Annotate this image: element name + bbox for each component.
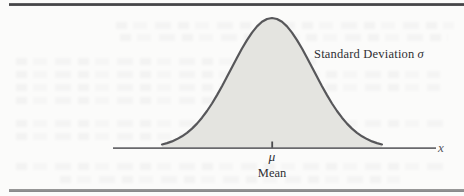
standard-deviation-text: Standard Deviation [314, 47, 414, 61]
standard-deviation-label: Standard Deviationσ [314, 47, 424, 62]
bottom-rule [9, 189, 464, 192]
normal-distribution-plot [0, 0, 464, 196]
sigma-symbol: σ [417, 47, 423, 61]
mu-label: μ [265, 149, 279, 165]
mean-tick [271, 142, 273, 148]
textbook-figure: Standard Deviationσ x μ Mean [0, 0, 464, 196]
mean-label: Mean [246, 166, 298, 181]
bell-curve-fill [162, 18, 382, 148]
x-axis-label: x [438, 140, 444, 156]
